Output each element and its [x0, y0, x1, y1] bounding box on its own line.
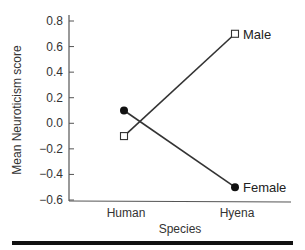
- line-chart: 0.80.60.40.20.0−0.2−0.4−0.6 HumanHyena M…: [0, 0, 305, 250]
- y-tick-label: −0.4: [39, 167, 63, 181]
- x-axis-line: [69, 201, 291, 202]
- x-axis-title: Species: [159, 222, 202, 236]
- y-axis: 0.80.60.40.20.0−0.2−0.4−0.6: [39, 14, 74, 207]
- series-group: MaleFemale: [120, 27, 286, 195]
- y-tick-label: 0.8: [46, 14, 63, 28]
- y-axis-title: Mean Neuroticism score: [10, 45, 24, 175]
- square-marker-icon: [121, 133, 128, 140]
- y-tick-label: 0.0: [46, 116, 63, 130]
- series-label-female: Female: [243, 180, 286, 195]
- y-tick-label: 0.6: [46, 40, 63, 54]
- square-marker-icon: [232, 30, 239, 37]
- y-tick-label: 0.2: [46, 91, 63, 105]
- series-line-male: [124, 34, 235, 136]
- series-label-male: Male: [243, 27, 271, 42]
- x-category-label: Human: [107, 206, 146, 220]
- circle-marker-icon: [231, 183, 239, 191]
- series-line-female: [124, 111, 235, 188]
- x-axis: HumanHyena: [69, 201, 291, 220]
- circle-marker-icon: [120, 107, 128, 115]
- x-category-label: Hyena: [220, 206, 255, 220]
- y-tick-label: −0.2: [39, 142, 63, 156]
- y-tick-label: −0.6: [39, 193, 63, 207]
- y-tick-label: 0.4: [46, 65, 63, 79]
- bottom-rule: [12, 241, 293, 245]
